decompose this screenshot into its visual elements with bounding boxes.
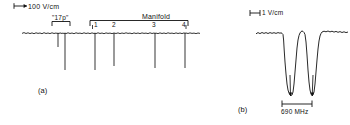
frequency-splitting-label: 690 MHz [281, 108, 308, 115]
panel-a-label: (a) [38, 86, 47, 95]
scalebar-b-icon [250, 10, 260, 16]
panel-b-label: (b) [238, 105, 247, 114]
scalebar-b-label: 1 V/cm [262, 9, 283, 16]
manifold-label: Manifold [142, 13, 170, 20]
trace-a-baseline [22, 33, 200, 34]
manifold-number-3: 3 [152, 21, 156, 28]
scalebar-a-icon [14, 3, 27, 9]
manifold-number-ticks [93, 25, 187, 29]
scalebar-a-label: 100 V/cm [28, 3, 59, 10]
trace-a-peaks [58, 33, 185, 70]
manifold-bracket-icon [90, 21, 188, 27]
frequency-span-icon [282, 101, 312, 108]
state-label-17p: "17p" [52, 14, 68, 21]
manifold-number-2: 2 [112, 21, 116, 28]
manifold-number-1: 1 [94, 21, 98, 28]
manifold-number-4: 4 [182, 21, 186, 28]
seventeen-p-bracket-icon [52, 22, 70, 27]
trace-b [256, 31, 348, 96]
figure-container: 100 V/cm "17p" Manifold 1 2 3 4 (a) 1 V/… [0, 0, 350, 125]
